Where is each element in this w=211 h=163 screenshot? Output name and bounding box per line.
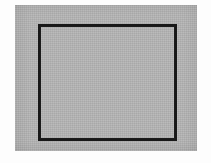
figure-canvas bbox=[0, 0, 211, 163]
black-outlined-rectangle bbox=[38, 24, 177, 141]
